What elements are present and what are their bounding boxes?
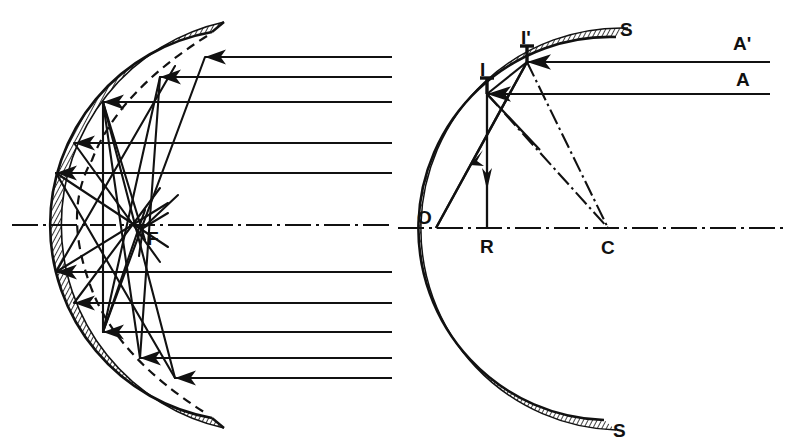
figure-panel-left: F [0, 0, 394, 444]
caustic-chord-3 [56, 173, 175, 378]
mirror-construction-diagram: S S I' I A' A O R C [394, 0, 788, 444]
label-R: R [480, 236, 494, 257]
label-focus-F: F [147, 228, 159, 249]
label-S-top: S [620, 19, 633, 40]
label-I: I [480, 59, 485, 80]
label-A: A [736, 69, 750, 90]
incident-ray-bundle [56, 57, 392, 378]
label-S-bottom: S [613, 420, 626, 441]
figure-sheet: F [0, 0, 788, 444]
spherical-aberration-diagram: F [0, 0, 394, 444]
label-O: O [417, 207, 432, 228]
label-A-prime: A' [733, 33, 751, 54]
figure-panel-right: S S I' I A' A O R C [394, 0, 788, 444]
label-C: C [601, 237, 615, 258]
label-I-prime: I' [521, 27, 531, 48]
chord-I-prime-to-C-solid [527, 62, 608, 228]
reflected-ray-bundle [56, 57, 205, 378]
